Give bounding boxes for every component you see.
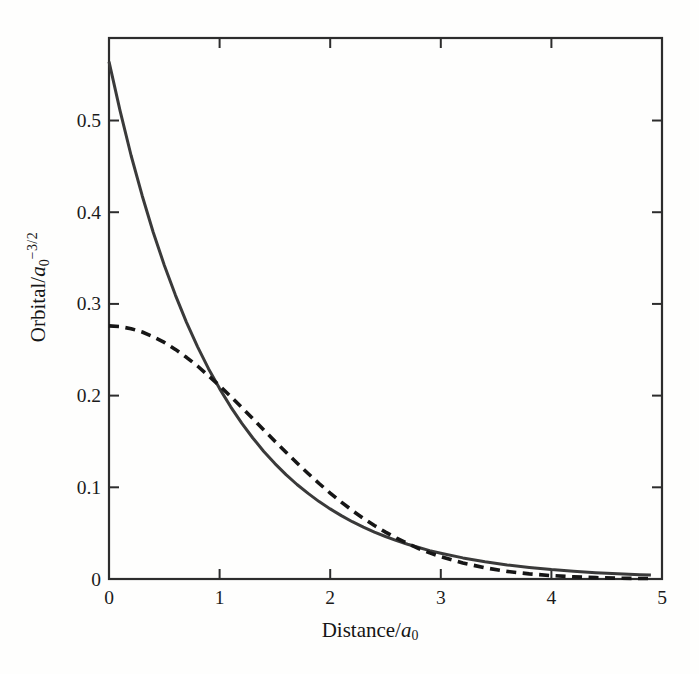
y-axis-label-symbol: a (26, 266, 50, 277)
x-tick-label: 4 (547, 587, 557, 608)
x-axis-label: Distance/a0 (322, 618, 419, 645)
y-tick-label: 0.4 (77, 202, 102, 223)
y-axis-label: Orbital/a0−3/2 (25, 232, 53, 342)
x-tick-label: 5 (657, 587, 667, 608)
y-tick-label: 0 (91, 569, 101, 590)
y-tick-label: 0.5 (77, 110, 101, 131)
y-axis-label-superscript: −3/2 (25, 232, 40, 260)
x-axis-label-symbol: a (401, 618, 412, 642)
y-tick-label: 0.2 (77, 385, 101, 406)
figure-canvas: 01234500.10.20.30.40.5 Orbital/a0−3/2 Di… (0, 0, 699, 674)
solid-curve (109, 62, 651, 575)
x-tick-label: 0 (104, 587, 114, 608)
plot-frame (109, 38, 662, 579)
orbital-comparison-chart: 01234500.10.20.30.40.5 (0, 0, 699, 674)
x-tick-label: 1 (215, 587, 225, 608)
y-axis-label-prefix: Orbital/ (26, 277, 50, 342)
dashed-curve (109, 326, 651, 579)
y-tick-label: 0.1 (77, 477, 101, 498)
x-axis-label-prefix: Distance/ (322, 618, 401, 642)
x-tick-label: 2 (325, 587, 335, 608)
x-axis-label-subscript: 0 (411, 628, 418, 643)
y-tick-label: 0.3 (77, 293, 101, 314)
x-tick-label: 3 (436, 587, 446, 608)
y-axis-label-subscript: 0 (37, 259, 52, 266)
